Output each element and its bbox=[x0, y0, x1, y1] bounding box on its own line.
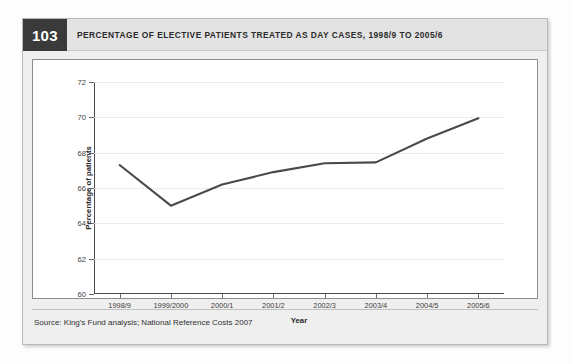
y-axis-title: Percentage of patients bbox=[84, 146, 93, 230]
y-tick-label: 60 bbox=[78, 290, 86, 299]
x-tick-mark bbox=[171, 294, 172, 298]
y-tick-label: 72 bbox=[78, 78, 86, 87]
y-tick-label: 70 bbox=[78, 113, 86, 122]
figure-number-badge: 103 bbox=[23, 19, 67, 51]
plot-area: 60626466687072 1998/91999/20002000/12001… bbox=[94, 82, 504, 294]
y-tick-label: 62 bbox=[78, 254, 86, 263]
x-tick-mark bbox=[222, 294, 223, 298]
data-line-series bbox=[94, 82, 504, 294]
x-tick-mark bbox=[478, 294, 479, 298]
chart-panel: 60626466687072 1998/91999/20002000/12001… bbox=[32, 59, 538, 299]
figure-title: Percentage of elective patients treated … bbox=[77, 19, 541, 51]
x-tick-mark bbox=[325, 294, 326, 298]
figure-container: 103 Percentage of elective patients trea… bbox=[22, 18, 548, 345]
y-tick-mark bbox=[89, 294, 94, 295]
footer-divider bbox=[32, 309, 538, 310]
x-tick-mark bbox=[120, 294, 121, 298]
x-tick-mark bbox=[427, 294, 428, 298]
screenshot-root: 103 Percentage of elective patients trea… bbox=[0, 0, 570, 364]
x-tick-mark bbox=[273, 294, 274, 298]
x-tick-mark bbox=[376, 294, 377, 298]
figure-source: Source: King's Fund analysis; National R… bbox=[34, 318, 253, 327]
figure-header: 103 Percentage of elective patients trea… bbox=[23, 19, 547, 51]
